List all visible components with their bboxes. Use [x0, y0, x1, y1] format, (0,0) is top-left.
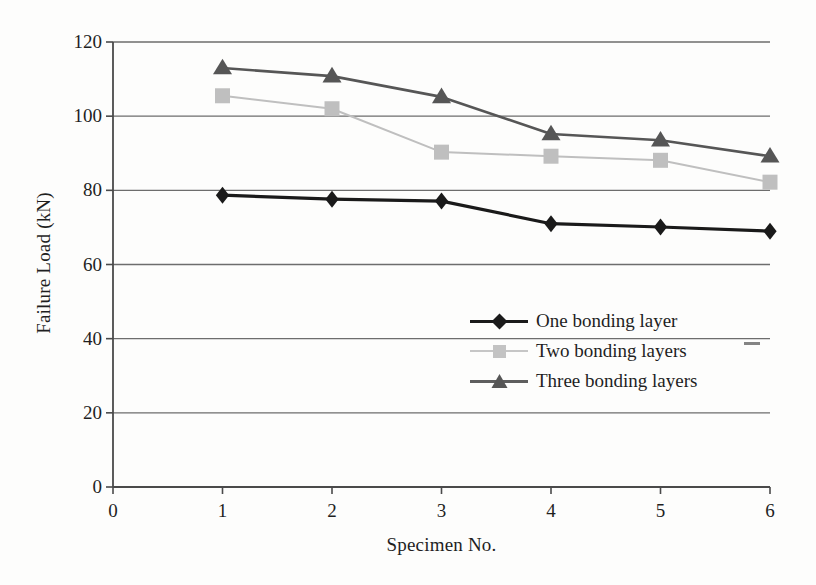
- legend-label-two-bonding-layers: Two bonding layers: [528, 340, 687, 362]
- data-point: [763, 175, 778, 190]
- data-point: [216, 187, 229, 204]
- data-point: [325, 191, 338, 208]
- data-point: [213, 59, 232, 75]
- stray-dash-artifact: [744, 342, 760, 345]
- legend-key-square-icon: [470, 339, 528, 363]
- y-axis-ticks: [106, 42, 113, 487]
- data-point: [653, 153, 668, 168]
- chart-legend: One bonding layer Two bonding layers Thr…: [470, 306, 760, 396]
- series-two-bonding-layers: [215, 88, 778, 189]
- legend-item-two-bonding-layers: Two bonding layers: [470, 336, 760, 366]
- data-point: [544, 149, 559, 164]
- data-point: [435, 193, 448, 210]
- legend-key-diamond-icon: [470, 309, 528, 333]
- failure-load-line-chart: Failure Load (kN) Specimen No. 020406080…: [0, 0, 816, 585]
- data-point: [544, 215, 557, 232]
- x-axis-ticks: [113, 487, 770, 494]
- data-point: [654, 219, 667, 236]
- data-point: [434, 145, 449, 160]
- plot-area: [0, 0, 816, 585]
- legend-item-three-bonding-layers: Three bonding layers: [470, 366, 760, 396]
- data-point: [215, 88, 230, 103]
- data-point: [325, 101, 340, 116]
- legend-item-one-bonding-layer: One bonding layer: [470, 306, 760, 336]
- series-one-bonding-layer: [216, 187, 777, 240]
- legend-label-one-bonding-layer: One bonding layer: [528, 310, 677, 332]
- data-point: [763, 223, 776, 240]
- legend-key-triangle-icon: [470, 369, 528, 393]
- series-three-bonding-layers: [213, 59, 780, 163]
- data-series-layer: [213, 59, 780, 240]
- legend-label-three-bonding-layers: Three bonding layers: [528, 370, 697, 392]
